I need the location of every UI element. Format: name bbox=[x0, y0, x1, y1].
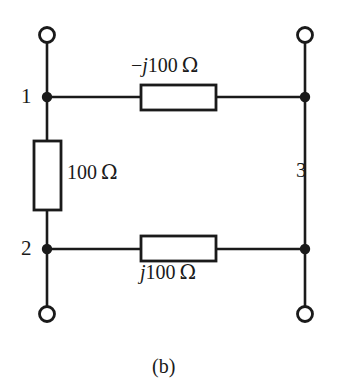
top-resistor-label: −j100 Ω bbox=[131, 55, 198, 75]
node-label-1: 1 bbox=[21, 86, 32, 107]
junction-dot-node3-bottom bbox=[300, 244, 310, 254]
bottom-resistor-label: j100 Ω bbox=[140, 262, 196, 282]
resistor-boxes bbox=[34, 85, 216, 261]
middle-resistor-body bbox=[34, 141, 61, 210]
figure-caption: (b) bbox=[152, 355, 175, 378]
top-resistor-sign: − bbox=[131, 54, 142, 76]
node-label-2: 2 bbox=[21, 238, 32, 259]
terminal-bottom-left-icon bbox=[40, 307, 55, 322]
junction-dot-node2 bbox=[42, 244, 52, 254]
terminal-top-left-icon bbox=[40, 28, 55, 43]
circuit-figure: 1 2 3 −j100 Ω 100 Ω j100 Ω (b) bbox=[0, 0, 338, 391]
terminal-bottom-right-icon bbox=[298, 307, 313, 322]
top-resistor-body bbox=[141, 85, 216, 110]
terminal-top-right-icon bbox=[298, 28, 313, 43]
top-resistor-unit: Ω bbox=[182, 53, 199, 77]
junction-dot-node3-top bbox=[300, 92, 310, 102]
junction-dot-node1 bbox=[42, 92, 52, 102]
bottom-resistor-magnitude: 100 bbox=[146, 261, 176, 283]
top-resistor-magnitude: 100 bbox=[148, 54, 178, 76]
middle-resistor-unit: Ω bbox=[101, 160, 118, 184]
middle-resistor-label: 100 Ω bbox=[67, 162, 118, 182]
middle-resistor-magnitude: 100 bbox=[67, 161, 97, 183]
bottom-resistor-unit: Ω bbox=[180, 260, 197, 284]
node-label-3: 3 bbox=[296, 160, 307, 181]
bottom-resistor-body bbox=[141, 236, 216, 261]
